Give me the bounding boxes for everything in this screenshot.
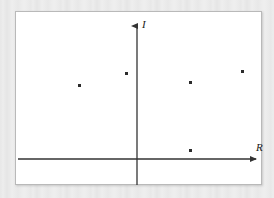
axes-group: [16, 12, 263, 186]
data-point: [189, 149, 192, 152]
data-point: [78, 84, 81, 87]
data-point: [189, 81, 192, 84]
real-axis-label: R: [256, 142, 263, 153]
figure-root: I R: [0, 0, 274, 198]
data-point: [241, 70, 244, 73]
plot-frame: I R: [15, 11, 262, 185]
imaginary-axis-label: I: [142, 19, 146, 30]
data-point: [125, 72, 128, 75]
plot-area: I R: [16, 12, 261, 184]
